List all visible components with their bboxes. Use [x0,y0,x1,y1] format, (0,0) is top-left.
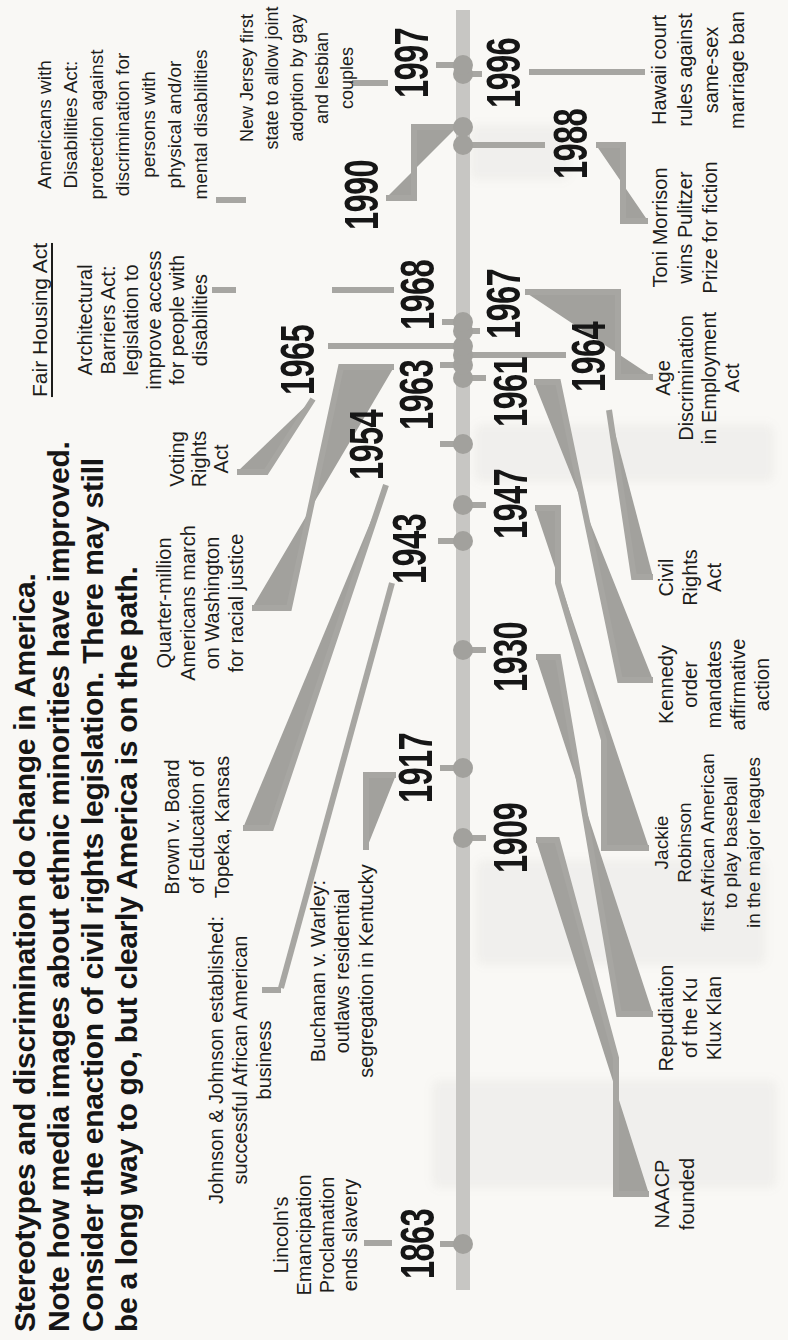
event-label-brown: Brown v. Board of Education of Topeka, K… [160,747,235,907]
connector-voting-label [237,399,313,472]
timeline-year-1990: 1990 [340,151,384,239]
event-label-morrison: Toni Morrison wins Pulitzer Prize for fi… [648,145,723,310]
timeline-dot-1954 [453,434,473,454]
timeline-dot-1943 [453,531,473,551]
timeline-year-1997: 1997 [390,19,434,107]
event-label-kkk: Repudiation of the Ku Klux Klan [654,938,726,1098]
timeline-year-1963: 1963 [395,351,439,439]
event-label-fairhousing-heading: Fair Housing Act [28,230,52,410]
timeline-dot-1930 [453,640,473,660]
timeline-dot-1909 [453,828,473,848]
timeline-year-1917: 1917 [394,724,438,812]
timeline-year-1863: 1863 [396,1200,440,1288]
timeline-dot-1863 [453,1234,473,1254]
event-label-buchanan: Buchanan v. Warley: outlaws residential … [306,830,378,1112]
event-label-hawaii: Hawaii court rules against same-sex marr… [646,0,750,160]
timeline-year-1965: 1965 [276,316,320,404]
event-label-kennedy: Kennedy order mandates affirmative actio… [654,622,774,747]
event-label-naacp: NAACP founded [650,1114,700,1274]
event-label-voting: Voting Rights Act [166,419,232,499]
timeline-dot-1997 [453,55,473,75]
timeline-year-1988: 1988 [549,100,593,188]
scanned-page: { "colors": { "ink": "#161616", "label":… [0,0,788,1340]
event-label-robinson: Jackie Robinson first African American t… [650,730,765,955]
event-label-ada: Americans with Disabilities Act: protect… [32,47,214,202]
timeline-year-1909: 1909 [489,794,533,882]
timeline-year-1930: 1930 [489,613,533,701]
event-label-johnson: Johnson & Johnson established: successfu… [204,895,276,1225]
timeline-year-1996: 1996 [482,29,526,117]
timeline-year-1964: 1964 [567,313,611,401]
event-label-adea: Age Discrimination in Employment Act [652,304,744,452]
timeline-year-1968: 1968 [396,251,440,339]
timeline-dot-1990 [453,117,473,137]
connector-civilrights-label [609,410,653,577]
timeline-year-1967: 1967 [482,260,526,348]
connector-1990 [386,127,457,198]
event-label-newjersey: New Jersey first state to allow joint ad… [235,0,360,158]
event-label-lincoln: Lincoln's Emancipation Proclamation ends… [270,1155,362,1315]
event-label-march: Quarter-million Americans march on Washi… [152,519,248,687]
timeline-year-1943: 1943 [388,505,432,593]
timeline-dot-1917 [453,758,473,778]
event-label-fairhousing: Architectural Barriers Act: legislation … [74,240,212,400]
timeline-dot-1968 [453,312,473,332]
timeline-dot-1947 [453,495,473,515]
event-label-civilrights: Civil Rights Act [654,525,726,630]
connector-morrison-label [596,145,648,221]
timeline-dot-1988 [453,135,473,155]
timeline-year-1961: 1961 [489,348,533,436]
timeline-figure: Stereotypes and discrimination do change… [0,0,788,1340]
timeline-year-1947: 1947 [489,460,533,548]
timeline-year-1954: 1954 [345,401,389,489]
